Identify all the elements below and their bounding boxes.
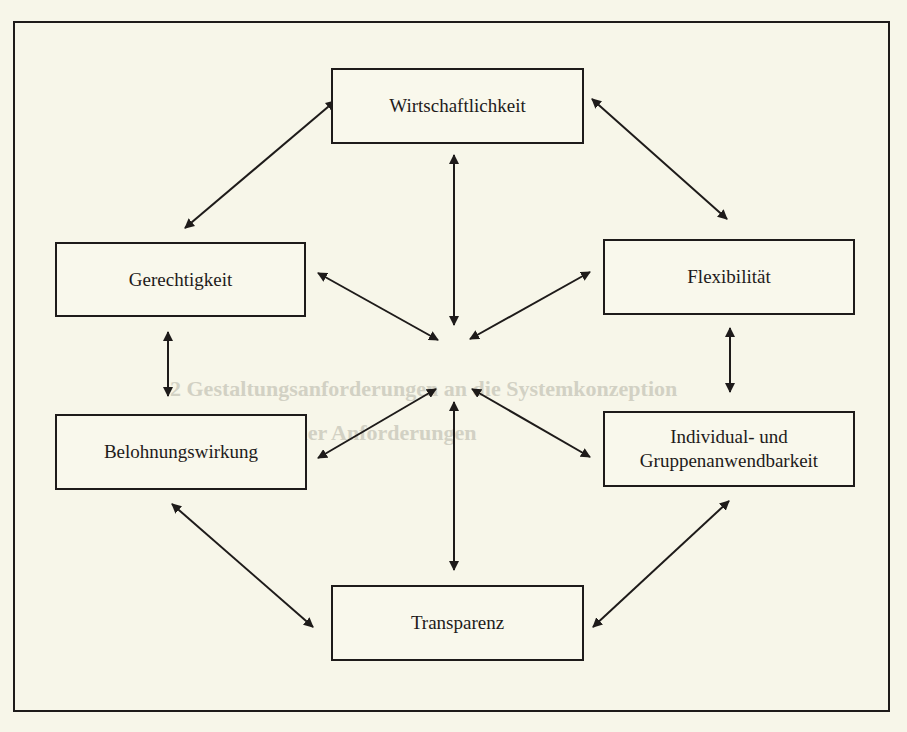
node-gerechtigkeit: Gerechtigkeit (55, 242, 306, 317)
node-label: Flexibilität (687, 265, 770, 289)
node-belohnungswirkung: Belohnungswirkung (55, 414, 307, 490)
node-flexibilitaet: Flexibilität (603, 239, 855, 315)
node-label: Gerechtigkeit (129, 268, 232, 292)
node-individual-gruppenanwendbarkeit: Individual- und Gruppenanwendbarkeit (603, 411, 855, 487)
node-transparenz: Transparenz (331, 585, 584, 661)
node-label: Belohnungswirkung (104, 440, 258, 464)
node-label-line1: Individual- und (670, 425, 788, 449)
node-label: Wirtschaftlichkeit (389, 94, 525, 118)
node-wirtschaftlichkeit: Wirtschaftlichkeit (331, 68, 584, 144)
node-label-line2: Gruppenanwendbarkeit (640, 449, 818, 473)
node-label: Transparenz (411, 611, 504, 635)
